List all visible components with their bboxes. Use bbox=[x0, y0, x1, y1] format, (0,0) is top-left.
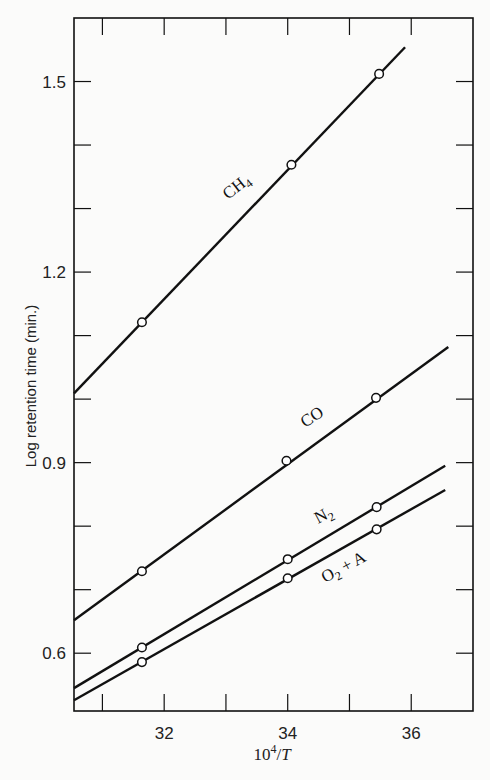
series-label: CH4 bbox=[219, 170, 256, 206]
x-tick-label: 32 bbox=[155, 724, 174, 743]
fit-line bbox=[74, 466, 445, 688]
y-tick-label: 0.9 bbox=[42, 454, 66, 473]
series-ch4 bbox=[74, 47, 405, 393]
x-tick-label: 34 bbox=[278, 724, 297, 743]
series-label: N2 bbox=[311, 502, 337, 530]
axis-ticks bbox=[74, 18, 473, 711]
series-co bbox=[74, 347, 448, 620]
data-point-marker bbox=[138, 658, 147, 667]
y-tick-label: 1.5 bbox=[42, 73, 66, 92]
plot-border bbox=[74, 18, 473, 711]
data-point-marker bbox=[287, 160, 296, 169]
x-axis-title: 104/T bbox=[253, 742, 292, 764]
fit-line bbox=[74, 47, 405, 393]
series-o2-a bbox=[74, 490, 445, 700]
series-label: CO bbox=[297, 403, 327, 432]
fit-line bbox=[74, 347, 448, 620]
retention-time-chart: 3234360.60.91.21.5 CH4CON2O2 + A Log ret… bbox=[0, 0, 490, 780]
series-n2 bbox=[74, 466, 445, 688]
data-series bbox=[74, 47, 448, 700]
data-point-marker bbox=[372, 503, 381, 512]
y-axis-title: Log retention time (min.) bbox=[22, 305, 39, 468]
data-point-marker bbox=[283, 574, 292, 583]
x-tick-label: 36 bbox=[402, 724, 421, 743]
data-point-marker bbox=[372, 394, 381, 403]
y-tick-label: 0.6 bbox=[42, 644, 66, 663]
data-point-marker bbox=[283, 555, 292, 564]
data-point-marker bbox=[282, 456, 291, 465]
plot-frame bbox=[74, 18, 473, 711]
data-point-marker bbox=[138, 567, 147, 576]
data-point-marker bbox=[138, 643, 147, 652]
y-tick-label: 1.2 bbox=[42, 263, 66, 282]
fit-line bbox=[74, 490, 445, 700]
data-point-marker bbox=[138, 318, 147, 327]
data-point-marker bbox=[375, 70, 384, 79]
series-labels: CH4CON2O2 + A bbox=[219, 170, 371, 589]
data-point-marker bbox=[372, 525, 381, 534]
series-label: O2 + A bbox=[318, 547, 371, 589]
